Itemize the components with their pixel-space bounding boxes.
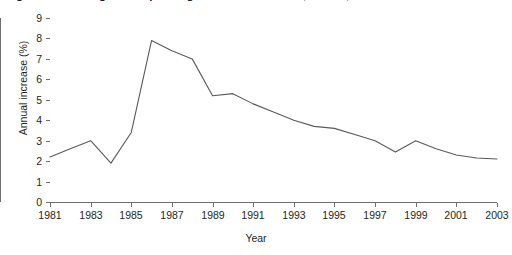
data-series-layer bbox=[0, 0, 512, 255]
line-series-annual-increase bbox=[50, 40, 497, 163]
chart-figure: Figure 1.1 Nursing home spending in the … bbox=[0, 0, 512, 255]
